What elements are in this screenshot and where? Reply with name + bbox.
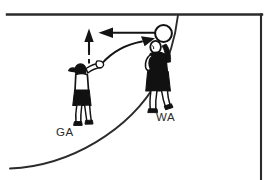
ga-hands — [96, 61, 104, 68]
wa-leg-left — [150, 91, 157, 111]
diagram-background — [0, 0, 269, 180]
wa-skirt — [146, 72, 171, 92]
diagram-canvas: GA WA — [0, 0, 269, 180]
label-ga: GA — [56, 126, 74, 138]
ga-shoe-left — [74, 122, 83, 126]
label-wa: WA — [156, 111, 175, 123]
netball-diagram: GA WA — [0, 0, 269, 180]
wa-head — [150, 41, 161, 53]
ga-leg-left — [76, 105, 82, 124]
ga-torso — [75, 73, 89, 92]
ga-skirt — [73, 90, 91, 106]
ball-icon — [155, 25, 172, 42]
ga-shoe-right — [85, 120, 93, 124]
ga-ponytail — [69, 68, 77, 72]
